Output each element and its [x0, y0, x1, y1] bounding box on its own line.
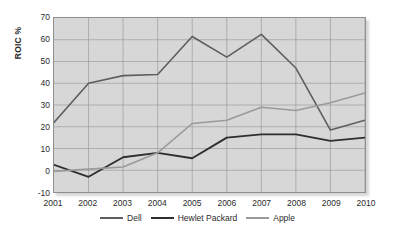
legend-swatch-icon — [246, 217, 269, 219]
y-tick-label: 10 — [4, 145, 50, 154]
y-tick-label: 0 — [4, 167, 50, 176]
x-axis-ticks: 2001200220032004200520062007200820092010 — [0, 199, 395, 213]
chart-legend: DellHewlet PackardApple — [0, 214, 395, 223]
y-tick-label: 70 — [4, 13, 50, 22]
y-tick-label: 60 — [4, 35, 50, 44]
y-tick-label: -10 — [4, 189, 50, 198]
legend-item-hewlet-packard[interactable]: Hewlet Packard — [151, 214, 238, 223]
y-tick-label: 40 — [4, 79, 50, 88]
legend-swatch-icon — [151, 217, 174, 219]
series-line-2 — [54, 93, 365, 171]
legend-item-dell[interactable]: Dell — [100, 214, 142, 223]
plot-area — [53, 17, 366, 193]
series-line-0 — [54, 34, 365, 130]
y-tick-label: 30 — [4, 101, 50, 110]
y-tick-label: 20 — [4, 123, 50, 132]
legend-swatch-icon — [100, 217, 123, 219]
roic-line-chart: ROIC % -10010203040506070 20012002200320… — [0, 0, 395, 243]
legend-item-apple[interactable]: Apple — [246, 214, 295, 223]
legend-label: Dell — [127, 214, 142, 223]
series-lines — [54, 18, 365, 192]
legend-label: Hewlet Packard — [178, 214, 238, 223]
x-tick-label: 2010 — [346, 199, 386, 208]
legend-label: Apple — [273, 214, 295, 223]
y-tick-label: 50 — [4, 57, 50, 66]
series-line-1 — [54, 134, 365, 176]
